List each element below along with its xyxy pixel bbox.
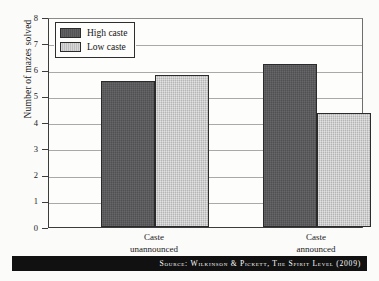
x-axis-label-line1: Caste	[306, 232, 326, 242]
y-axis-tick-label: 7	[20, 40, 38, 49]
y-axis-tick-label: 4	[20, 119, 38, 128]
legend-item: High caste	[60, 26, 127, 40]
y-axis-tick-label: 1	[20, 197, 38, 206]
x-axis-label-line1: Caste	[144, 232, 164, 242]
y-axis-tick-label: 2	[20, 171, 38, 180]
x-axis-label-line2: unannounced	[89, 244, 219, 256]
legend-label: Low caste	[87, 42, 126, 52]
source-band: Source: Wilkinson & Pickett, The Spirit …	[12, 256, 367, 271]
legend-label: High caste	[87, 28, 127, 38]
y-axis-tick-label: 8	[20, 14, 38, 23]
chart-figure: Number of mazes solved 012345678 High ca…	[0, 0, 379, 281]
legend-swatch-high	[60, 28, 81, 38]
x-axis-label-group1: Casteunannounced	[89, 232, 219, 255]
y-axis-tick	[42, 228, 48, 229]
x-axis-label-line2: announced	[251, 244, 379, 256]
bar-low-group2	[317, 113, 371, 227]
source-text: Source: Wilkinson & Pickett, The Spirit …	[159, 259, 361, 268]
y-axis-title: Number of mazes solved	[23, 0, 33, 157]
bar-high-group2	[263, 64, 317, 227]
y-axis-tick-label: 0	[20, 224, 38, 233]
legend-item: Low caste	[60, 40, 127, 54]
y-axis-tick-label: 6	[20, 66, 38, 75]
chart-legend: High casteLow caste	[55, 22, 135, 58]
y-axis-tick-label: 3	[20, 145, 38, 154]
bar-high-group1	[101, 81, 155, 227]
bar-low-group1	[155, 75, 209, 227]
legend-swatch-low	[60, 42, 81, 52]
y-axis-tick-label: 5	[20, 92, 38, 101]
x-axis-label-group2: Casteannounced	[251, 232, 379, 255]
